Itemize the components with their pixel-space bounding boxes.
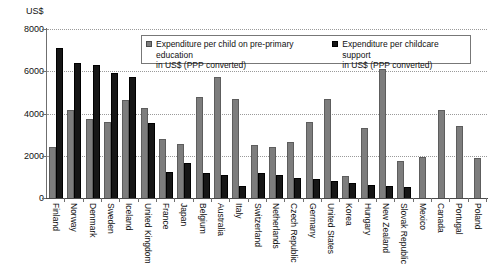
bar-series-1 [166,172,173,198]
x-axis-tick-mark [157,198,175,202]
legend-item-pre-primary: Expenditure per child on pre-primary edu… [146,39,332,63]
bar-series-0 [49,147,56,198]
bar-group [65,29,83,198]
bar-series-0 [232,99,239,198]
x-axis-label-text: Korea [344,203,353,226]
x-axis-tick-mark [432,198,450,202]
bar-series-1 [404,187,411,198]
x-axis-tick-mark [139,198,157,202]
x-axis-label-text: Switzerland [253,203,262,247]
x-axis-label: Switzerland [249,203,267,278]
bar-series-1 [276,175,283,198]
x-axis-label: Iceland [120,203,138,278]
x-axis-tick-marks [47,198,487,202]
x-axis-label: Australia [212,203,230,278]
bar-series-0 [361,128,368,198]
bar-group [84,29,102,198]
x-axis-label-text: Iceland [124,203,133,230]
x-axis-tick-mark [212,198,230,202]
x-axis-label: Sweden [102,203,120,278]
bar-series-1 [129,77,136,198]
x-axis-label: Belgium [194,203,212,278]
bar-series-1 [313,179,320,198]
x-axis-label-text: Mexico [418,203,427,230]
bar-group [120,29,138,198]
legend-label-childcare-line2: in US$ (PPP converted) [342,60,432,70]
x-axis-label: Netherlands [267,203,285,278]
legend-item-childcare: Expenditure per childcare support in US$… [332,39,466,63]
x-axis-label: Canada [432,203,450,278]
legend-label-pre-primary-line2: in US$ (PPP converted) [156,60,246,70]
bar-series-0 [474,158,481,198]
bar-series-0 [287,142,294,198]
x-axis-label-text: Japan [179,203,188,226]
chart-legend: Expenditure per child on pre-primary edu… [141,35,471,64]
x-axis-label-text: Germany [308,203,317,238]
x-axis-tick-mark [230,198,248,202]
legend-label-childcare: Expenditure per childcare support in US$… [342,39,466,71]
bar-group [469,29,487,198]
x-axis-label-text: Norway [69,203,78,232]
bar-series-0 [86,119,93,198]
bar-series-0 [456,126,463,198]
bar-series-1 [93,65,100,198]
x-axis-label-text: United States [326,203,335,254]
x-axis-tick-mark [120,198,138,202]
x-axis-tick-mark [322,198,340,202]
x-axis-label-text: Belgium [198,203,207,234]
y-axis-ticks: 02000400060008000 [0,0,44,278]
bar-series-1 [184,163,191,198]
x-axis-tick-mark [304,198,322,202]
x-axis-label-text: Denmark [88,203,97,237]
x-axis-label: Norway [65,203,83,278]
bar-series-1 [331,181,338,198]
x-axis-tick-mark [175,198,193,202]
bar-series-0 [306,122,313,198]
x-axis-tick-mark [377,198,395,202]
x-axis-tick-mark [194,198,212,202]
x-axis-label-text: Poland [473,203,482,229]
bar-series-1 [258,173,265,198]
x-axis-tick-mark [414,198,432,202]
bar-series-0 [397,161,404,198]
x-axis-label-text: Italy [234,203,243,219]
x-axis-label: Finland [47,203,65,278]
x-axis-label-text: Sweden [106,203,115,234]
bar-series-1 [221,175,228,198]
bar-series-0 [379,69,386,198]
y-axis-tick-label: 4000 [24,109,44,119]
bar-series-0 [141,108,148,198]
x-axis-label: Korea [340,203,358,278]
y-axis-tick-label: 6000 [24,66,44,76]
x-axis-tick-mark [102,198,120,202]
legend-label-pre-primary: Expenditure per child on pre-primary edu… [156,39,332,71]
bar-series-1 [56,48,63,198]
x-axis-label: Denmark [84,203,102,278]
bar-series-0 [177,144,184,198]
x-axis-label: Poland [469,203,487,278]
y-axis-tick-label: 8000 [24,24,44,34]
bar-series-0 [342,176,349,198]
bar-series-1 [239,186,246,198]
x-axis-label: Italy [230,203,248,278]
x-axis-label: Mexico [414,203,432,278]
bar-group [102,29,120,198]
bar-series-1 [148,123,155,198]
x-axis-label-text: Netherlands [271,203,280,249]
x-axis-label-text: Czech Republic [289,203,298,263]
x-axis-label: United States [322,203,340,278]
x-axis-tick-mark [359,198,377,202]
legend-label-childcare-line1: Expenditure per childcare support [342,39,438,60]
x-axis-tick-mark [65,198,83,202]
x-axis-label-text: France [161,203,170,229]
bar-series-0 [104,122,111,198]
x-axis-label-text: New Zealand [381,203,390,253]
x-axis-tick-mark [249,198,267,202]
x-axis-tick-mark [450,198,468,202]
bar-chart: US$ 02000400060008000 FinlandNorwayDenma… [0,0,493,278]
x-axis-label: United Kingdom [139,203,157,278]
x-axis-label: New Zealand [377,203,395,278]
x-axis-label: Slovak Republic [395,203,413,278]
x-axis-tick-mark [395,198,413,202]
bar-series-0 [159,139,166,198]
